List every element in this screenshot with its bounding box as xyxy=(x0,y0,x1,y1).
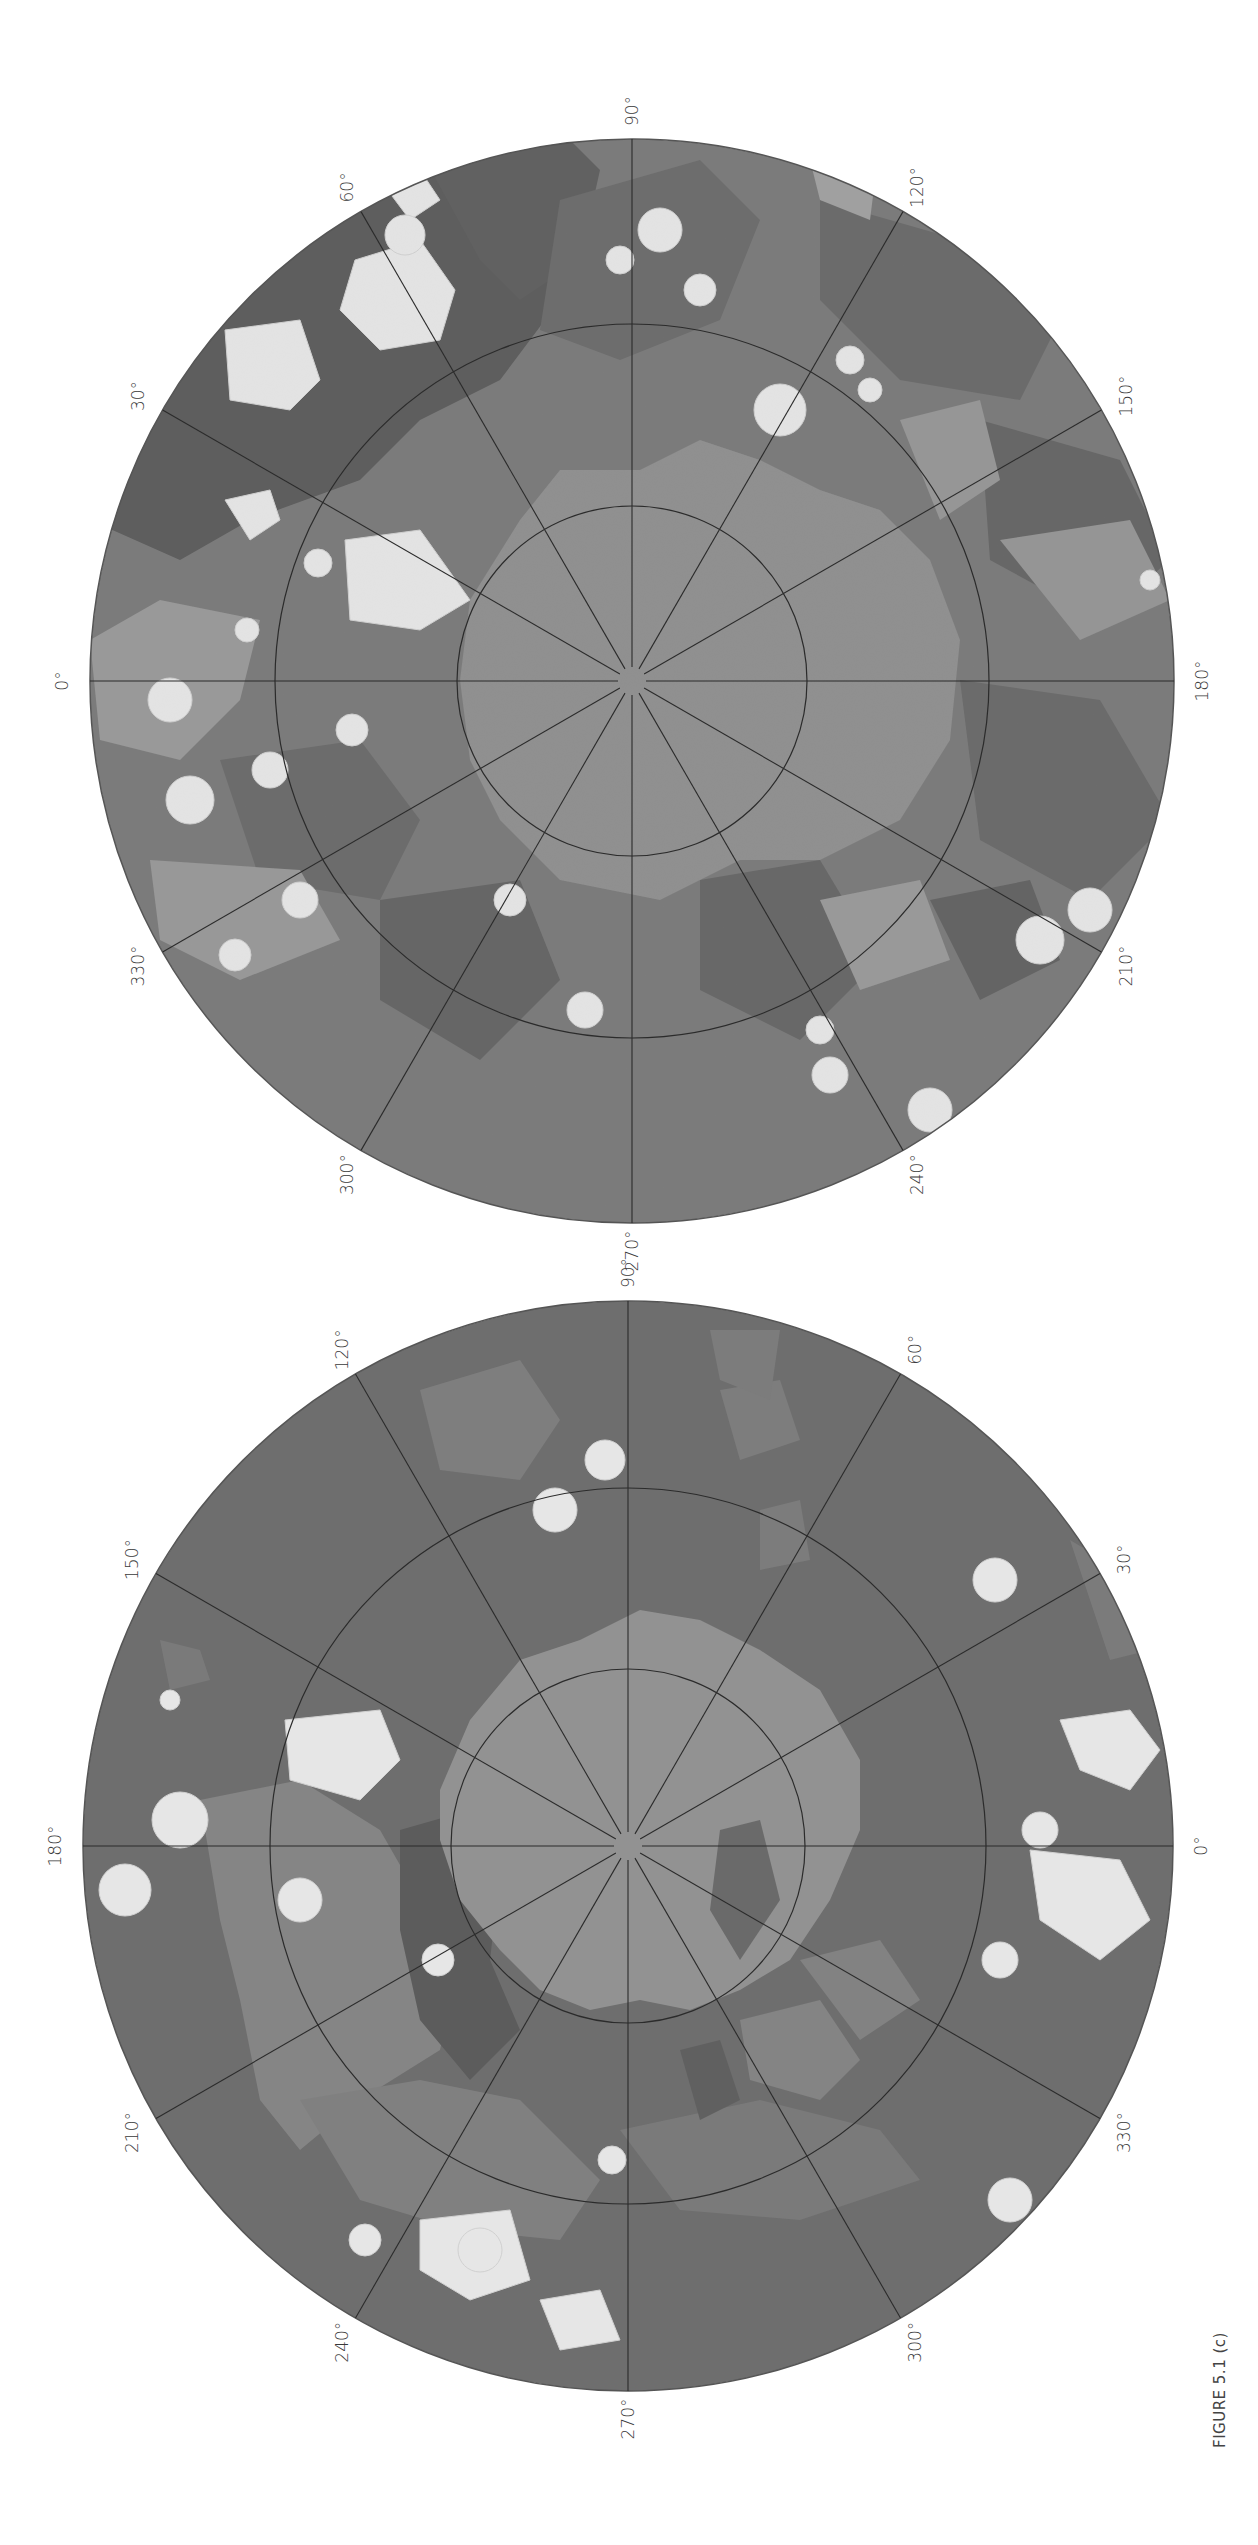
longitude-label: 210° xyxy=(122,2112,142,2153)
longitude-label: 0° xyxy=(1191,1836,1211,1855)
longitude-label: 30° xyxy=(1114,1544,1134,1574)
longitude-label: 180° xyxy=(45,1826,65,1867)
map-bottom: 0°30°60°90°120°150°180°210°240°270°300°3… xyxy=(45,1258,1211,2440)
longitude-label: 90° xyxy=(622,96,642,126)
longitude-label: 240° xyxy=(907,1154,927,1195)
longitude-label: 60° xyxy=(905,1335,925,1365)
longitude-label: 300° xyxy=(905,2322,925,2363)
longitude-label: 60° xyxy=(337,172,357,202)
longitude-label: 240° xyxy=(332,2322,352,2363)
longitude-label: 330° xyxy=(128,946,148,987)
longitude-label: 0° xyxy=(52,671,72,690)
longitude-label: 270° xyxy=(618,2399,638,2440)
map-top: 0°30°60°90°120°150°180°210°240°270°300°3… xyxy=(52,96,1212,1272)
longitude-label: 150° xyxy=(1116,376,1136,417)
figure-caption: FIGURE 5.1 (c) xyxy=(1211,2332,1229,2448)
longitude-label: 30° xyxy=(128,381,148,411)
longitude-label: 150° xyxy=(122,1539,142,1580)
longitude-label: 330° xyxy=(1114,2112,1134,2153)
longitude-label: 120° xyxy=(907,167,927,208)
longitude-label: 120° xyxy=(332,1329,352,1370)
longitude-label: 210° xyxy=(1116,946,1136,987)
longitude-label: 90° xyxy=(618,1258,638,1288)
longitude-label: 180° xyxy=(1192,661,1212,702)
figure-canvas: 0°30°60°90°120°150°180°210°240°270°300°3… xyxy=(0,0,1258,2545)
longitude-label: 300° xyxy=(337,1154,357,1195)
